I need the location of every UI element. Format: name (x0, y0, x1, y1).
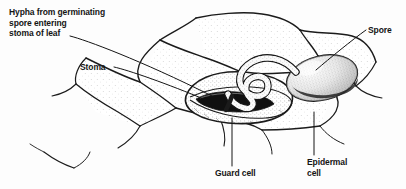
cell-wall-fragment-a (44, 152, 74, 168)
label-hypha-from-germinating-spore: Hypha from germinating spore entering st… (9, 7, 105, 39)
label-guard-cell: Guard cell (215, 168, 256, 179)
cell-wall-lower-left-tail (118, 126, 140, 148)
figure-canvas: Hypha from germinating spore entering st… (0, 0, 406, 189)
cell-wall-right-tail (356, 86, 382, 98)
cell-wall-lower-stub-b (262, 130, 272, 154)
cell-wall-fragment-c (30, 144, 44, 152)
cell-wall-fragment-b (74, 152, 90, 168)
cell-wall-lower-stub-c (320, 126, 344, 144)
cell-wall-left-edge-b (52, 84, 76, 96)
label-stoma: Stoma (80, 62, 105, 73)
label-epidermal-cell: Epidermal cell (307, 157, 347, 178)
cell-wall-top-left (160, 18, 196, 40)
label-spore: Spore (368, 25, 392, 36)
